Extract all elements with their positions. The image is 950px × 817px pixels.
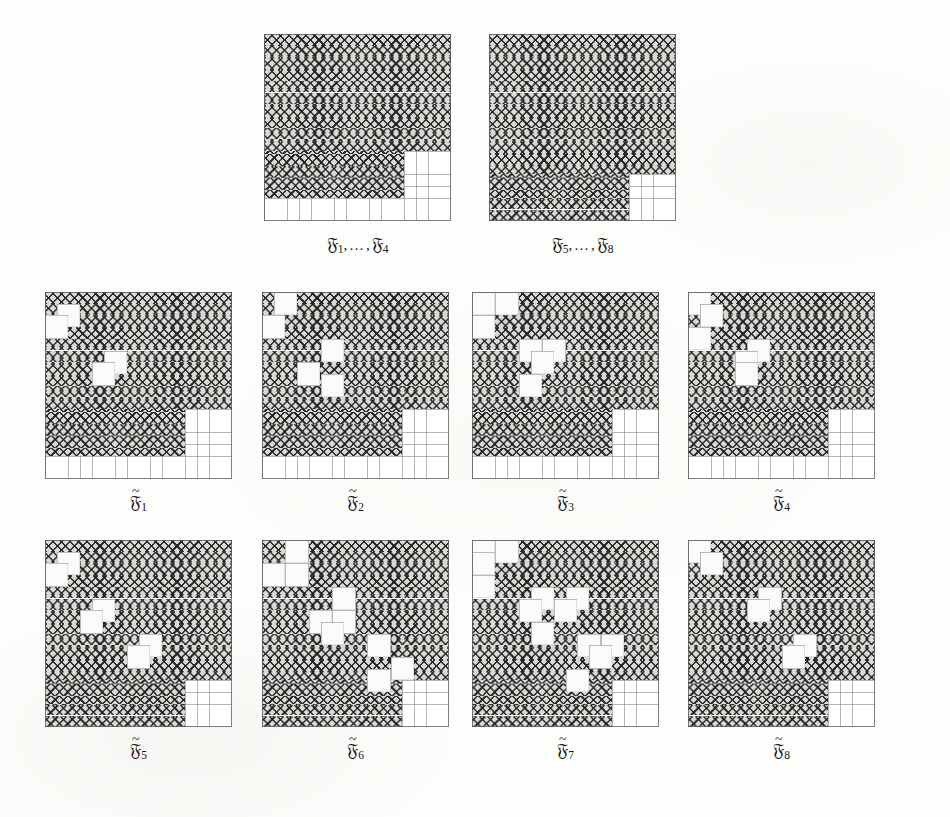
hole-grid-lines [45,563,68,586]
hatch-band [688,397,875,409]
hole-grid-lines [700,304,723,327]
hatch-band [264,104,451,116]
hatch-band [45,587,232,599]
hatch-band [688,386,875,398]
hatch-band [688,622,875,634]
hole-grid-lines [321,622,344,645]
panel-label: 𝔉5,…,𝔉8 [489,235,676,256]
hatch-band [472,704,612,716]
hatch-band [264,34,451,46]
grid-hole [391,657,414,680]
grid-panel: ~𝔉5 [45,540,232,727]
hatch-band [262,704,402,716]
hatched-grid [472,292,659,479]
grid-hole [554,599,577,622]
grid-hole [747,599,770,622]
hatch-band [489,57,676,69]
hatch-band [688,374,875,386]
grid-hole [700,304,723,327]
grid-hole [321,339,344,362]
hole-grid-lines [495,292,518,315]
panel-label: ~𝔉1 [45,493,232,514]
hole-grid-lines [735,362,758,385]
panel-label: ~𝔉7 [472,741,659,762]
hatched-grid [688,292,875,479]
hatch-band [472,327,659,339]
grid-hole [472,315,495,338]
hatch-band [262,645,449,657]
hole-grid-lines [262,315,285,338]
hatch-band [688,669,875,681]
hole-grid-lines [391,657,414,680]
hatch-band [45,622,232,634]
hole-grid-lines [519,374,542,397]
grid-panel: ~𝔉3 [472,292,659,479]
hatch-band [472,432,612,444]
hole-grid-lines [332,587,355,610]
hole-grid-lines [297,362,320,385]
hatch-band [688,292,875,304]
panel-label: 𝔉1,…,𝔉4 [264,235,451,256]
hatch-band [688,599,875,611]
hatch-band [262,432,402,444]
hole-grid-lines [531,351,554,374]
hatch-band [45,397,232,409]
grid-hole [262,563,285,586]
hatch-band [262,339,449,351]
hatch-band [472,680,612,692]
hatch-band [262,587,449,599]
hatch-band [472,657,659,669]
hatch-band [489,210,629,222]
grid-hole [92,362,115,385]
hatch-band [688,339,875,351]
grid-hole [495,292,518,315]
hatch-band [472,622,659,634]
grid-hole [262,315,285,338]
hatch-band [262,599,449,611]
hole-grid-lines [321,339,344,362]
hole-grid-lines [589,645,612,668]
hatch-band [472,362,659,374]
panel-label: ~𝔉3 [472,493,659,514]
hole-grid-lines [367,669,390,692]
hatch-band [262,421,402,433]
hatch-band [262,669,449,681]
hatch-band [262,362,449,374]
hatch-band [472,692,612,704]
grid-hole [472,552,495,575]
hole-grid-lines [262,563,285,586]
grid-hole [735,362,758,385]
hole-grid-lines [92,362,115,385]
hatch-band [688,409,828,421]
grid-hole [127,645,150,668]
hatch-band [45,409,185,421]
hatch-band [489,128,676,140]
grid-hole [688,327,711,350]
hatch-band [262,374,449,386]
hatch-band [688,587,875,599]
hatch-band [45,374,232,386]
hole-grid-lines [45,315,68,338]
hatch-band [489,186,629,198]
hatch-band [472,315,659,327]
hatched-grid [45,540,232,727]
grid-hole [45,563,68,586]
hatch-band [472,374,659,386]
hole-grid-lines [519,599,542,622]
hatch-band [264,93,451,105]
hatched-grid [262,540,449,727]
hatch-band [489,198,629,210]
hatch-band [264,139,451,151]
hatch-band [262,386,449,398]
hatch-band [45,327,232,339]
hatch-band [489,174,629,186]
hatch-band [45,704,185,716]
hatch-band [489,46,676,58]
hatch-band [688,634,875,646]
hatch-band [688,610,875,622]
hatch-band [45,610,232,622]
hatch-band [688,432,828,444]
hatch-band [45,716,185,728]
hatch-band [688,692,828,704]
grid-hole [700,552,723,575]
